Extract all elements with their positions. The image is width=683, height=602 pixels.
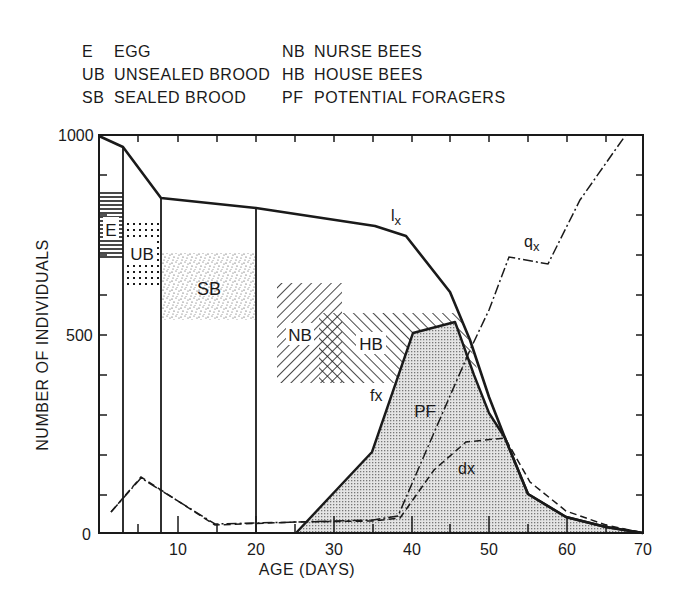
x-tick-70: 70	[634, 541, 652, 558]
label-unsealed-brood: UB	[130, 245, 154, 264]
label-qx: qx	[524, 233, 540, 254]
label-house-bees: HB	[359, 335, 383, 354]
x-axis-label: AGE (DAYS)	[259, 561, 355, 578]
x-tick-20: 20	[247, 541, 265, 558]
label-dx: dx	[458, 460, 475, 477]
x-tick-50: 50	[480, 541, 498, 558]
chart: 1000 500 0 10 20 30 40 50 60 70 AGE (DAY…	[0, 0, 683, 602]
x-tick-30: 30	[325, 541, 343, 558]
label-sealed-brood: SB	[197, 279, 221, 299]
y-tick-1000: 1000	[58, 127, 94, 144]
label-egg: E	[105, 221, 116, 240]
label-lx: lx	[391, 207, 402, 228]
label-fx: fx	[370, 387, 382, 404]
x-tick-40: 40	[403, 541, 421, 558]
y-axis-label: NUMBER OF INDIVIDUALS	[34, 239, 51, 450]
x-tick-10: 10	[169, 541, 187, 558]
label-nurse-bees: NB	[288, 326, 312, 345]
label-potential-foragers: PF	[414, 402, 436, 421]
y-tick-0: 0	[82, 526, 91, 543]
x-tick-60: 60	[558, 541, 576, 558]
y-tick-500: 500	[66, 327, 93, 344]
